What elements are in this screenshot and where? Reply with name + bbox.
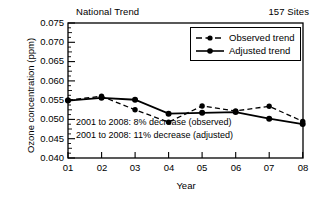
data-point: [199, 103, 204, 108]
ozone-trend-chart: National Trend 157 Sites Ozone concentra…: [0, 0, 321, 199]
data-point: [266, 104, 271, 109]
data-point: [300, 121, 306, 127]
annotation-block: 2001 to 2008: 8% decrease (observed) 200…: [76, 116, 233, 142]
legend-label: Adjusted trend: [229, 45, 290, 56]
legend-key-dashed-icon: [195, 32, 225, 44]
data-point: [199, 110, 205, 116]
annotation-line: 2001 to 2008: 11% decrease (adjusted): [76, 129, 233, 142]
legend-label: Observed trend: [229, 32, 294, 43]
legend: Observed trend Adjusted trend: [190, 27, 301, 61]
data-point: [132, 107, 137, 112]
annotation-line: 2001 to 2008: 8% decrease (observed): [76, 116, 233, 129]
data-point: [132, 97, 138, 103]
legend-item-adjusted: Adjusted trend: [195, 44, 294, 57]
data-point: [65, 98, 71, 104]
legend-key-solid-icon: [195, 45, 225, 57]
legend-item-observed: Observed trend: [195, 31, 294, 44]
data-point: [233, 109, 239, 115]
data-point: [266, 116, 272, 122]
x-tick-marks: [68, 152, 303, 158]
data-point: [99, 95, 105, 101]
